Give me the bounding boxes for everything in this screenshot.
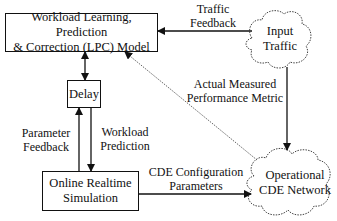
lpc-model-label-1: Workload Learning, Prediction	[6, 10, 157, 40]
workload-prediction-label: Workload Prediction	[95, 125, 155, 153]
lpc-model-box: Workload Learning, Prediction & Correcti…	[5, 13, 158, 52]
workload-prediction-label-2: Prediction	[95, 139, 155, 153]
simulation-label-2: Simulation	[49, 191, 131, 206]
cde-network-label: Operational CDE Network	[255, 168, 335, 198]
cde-network-label-2: CDE Network	[255, 183, 335, 198]
workload-prediction-label-1: Workload	[95, 125, 155, 139]
lpc-model-label-2: & Correction (LPC) Model	[6, 40, 157, 55]
simulation-label-1: Online Realtime	[49, 176, 131, 191]
performance-metric-label-2: Performance Metric	[185, 91, 285, 105]
performance-metric-label: Actual Measured Performance Metric	[185, 77, 285, 105]
cde-network-label-1: Operational	[255, 168, 335, 183]
parameter-feedback-label-2: Feedback	[16, 140, 76, 154]
performance-metric-label-1: Actual Measured	[185, 77, 285, 91]
cde-config-label-2: Parameters	[146, 179, 246, 193]
delay-box: Delay	[67, 80, 101, 108]
delay-label: Delay	[69, 87, 99, 102]
traffic-feedback-label-2: Feedback	[183, 16, 243, 30]
input-traffic-label-2: Traffic	[255, 39, 305, 54]
traffic-feedback-label-1: Traffic	[183, 2, 243, 16]
parameter-feedback-label-1: Parameter	[16, 126, 76, 140]
cde-config-label-1: CDE Configuration	[146, 165, 246, 179]
traffic-feedback-label: Traffic Feedback	[183, 2, 243, 30]
cde-config-label: CDE Configuration Parameters	[146, 165, 246, 193]
input-traffic-label-1: Input	[255, 24, 305, 39]
simulation-box: Online Realtime Simulation	[42, 171, 139, 211]
parameter-feedback-label: Parameter Feedback	[16, 126, 76, 154]
input-traffic-label: Input Traffic	[255, 24, 305, 54]
